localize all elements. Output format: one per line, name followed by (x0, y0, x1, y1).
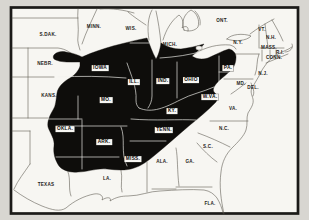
state-label-ark: ARK. (96, 139, 112, 145)
state-labels-layer: S.DAK.NEBR.KANS.TEXASLA.MINN.WIS.MICH.ON… (0, 0, 309, 220)
state-label-md: MD. (236, 81, 245, 86)
state-label-ohio: OHIO (183, 77, 199, 83)
state-label-wva: W.VA. (201, 94, 218, 100)
state-label-ga: GA. (186, 159, 195, 164)
state-label-ala: ALA. (156, 159, 168, 164)
state-label-iowa: IOWA (92, 65, 109, 71)
state-label-sc: S.C. (203, 144, 213, 149)
state-label-la: LA. (103, 176, 111, 181)
state-label-minn: MINN. (87, 24, 101, 29)
state-label-ont: ONT. (216, 18, 227, 23)
state-label-sdak: S.DAK. (39, 32, 56, 37)
state-label-kans: KANS. (41, 93, 57, 98)
state-label-okla: OKLA. (56, 126, 75, 132)
state-label-mass: MASS. (261, 45, 277, 50)
state-label-pa: PA. (222, 65, 233, 71)
state-label-fla: FLA. (204, 201, 215, 206)
state-label-conn: CONN. (266, 55, 282, 60)
state-label-ind: IND. (156, 78, 169, 84)
state-label-nc: N.C. (219, 126, 229, 131)
state-label-ny: N.Y. (233, 40, 242, 45)
state-label-tenn: TENN. (155, 127, 173, 133)
state-label-del: DEL. (247, 85, 258, 90)
state-label-nh: N.H. (266, 35, 276, 40)
state-label-va: VA. (229, 106, 237, 111)
state-label-mo: MO. (100, 97, 113, 103)
state-label-nebr: NEBR. (37, 61, 53, 66)
state-label-mich: MICH. (163, 42, 177, 47)
state-label-texas: TEXAS (38, 182, 55, 187)
state-label-vt: VT. (258, 27, 265, 32)
state-label-ky: KY. (167, 108, 178, 114)
state-label-nj: N.J. (258, 71, 267, 76)
state-label-miss: MISS. (124, 156, 141, 162)
map-figure: S.DAK.NEBR.KANS.TEXASLA.MINN.WIS.MICH.ON… (0, 0, 309, 220)
state-label-wis: WIS. (126, 26, 137, 31)
state-label-ill: ILL. (128, 79, 140, 85)
